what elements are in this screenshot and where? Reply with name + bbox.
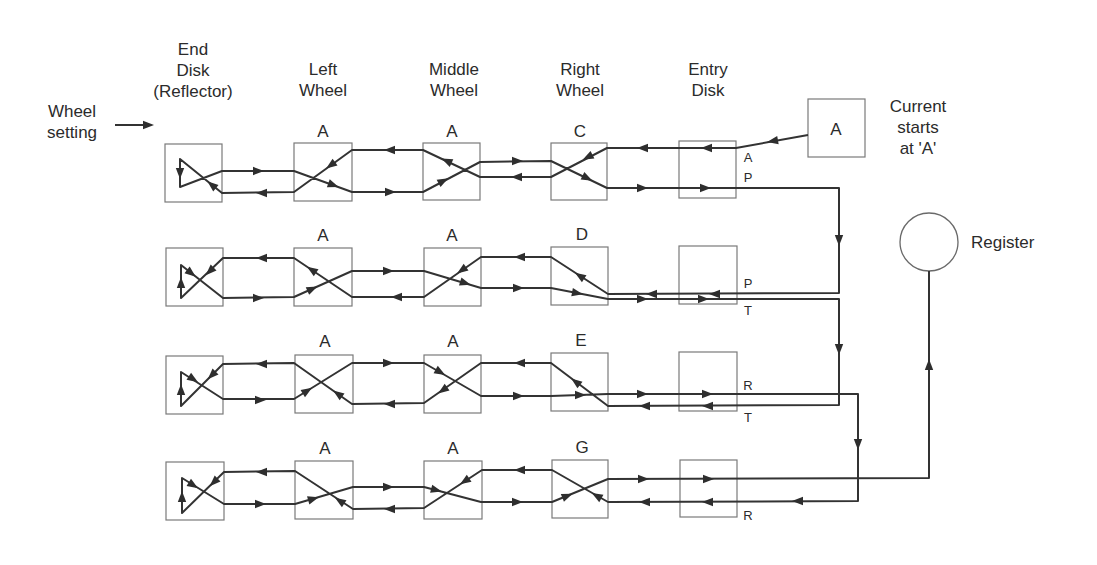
- entry-pin-in-row-1: A: [744, 151, 753, 164]
- arrow-icon: [639, 498, 650, 506]
- arrow-icon: [177, 277, 185, 288]
- label-line: Wheel: [556, 80, 604, 101]
- arrow-icon: [307, 493, 320, 504]
- column-header-entry-disk: Entry Disk: [688, 59, 728, 101]
- left-wheel-setting-row-4: A: [319, 440, 330, 457]
- arrow-icon: [766, 136, 778, 146]
- arrow-icon: [700, 184, 711, 192]
- arrow-icon: [792, 497, 803, 505]
- arrow-icon: [512, 157, 523, 165]
- arrow-icon: [637, 295, 648, 303]
- label-line: Disk: [153, 60, 232, 81]
- arrow-icon: [709, 290, 720, 298]
- label-line: starts: [890, 117, 947, 138]
- middle-wheel-box-row-1: [423, 143, 480, 200]
- end-disk-box-row-4: [166, 462, 224, 520]
- arrow-icon: [646, 290, 657, 298]
- entry-pin-out-row-2: T: [744, 304, 752, 317]
- arrow-icon: [637, 184, 648, 192]
- arrow-icon: [440, 155, 454, 167]
- label-line: at 'A': [890, 138, 947, 159]
- arrow-icon: [459, 278, 472, 289]
- current-path: [180, 135, 929, 513]
- label-line: Entry: [688, 59, 728, 80]
- arrow-icon: [255, 396, 266, 404]
- label-line: Current: [890, 96, 947, 117]
- arrow-icon: [256, 468, 267, 476]
- entry-disk-box-row-4: [680, 460, 737, 517]
- label-line: Disk: [688, 80, 728, 101]
- arrow-icon: [385, 188, 396, 196]
- source-caption: Current starts at 'A': [890, 96, 947, 159]
- right-wheel-setting-row-3: E: [575, 332, 586, 349]
- arrow-icon: [513, 284, 524, 292]
- arrow-icon: [187, 479, 201, 492]
- label-line: (Reflector): [153, 81, 232, 102]
- arrow-icon: [256, 254, 267, 262]
- entry-pin-out-row-4: R: [743, 509, 752, 522]
- column-header-end-disk: End Disk (Reflector): [153, 39, 232, 102]
- arrow-icon: [176, 168, 184, 179]
- arrow-icon: [639, 402, 650, 410]
- arrow-icon: [437, 174, 451, 187]
- arrow-icon: [434, 366, 448, 379]
- entry-disk-box-row-3: [679, 352, 737, 411]
- arrow-icon: [925, 359, 933, 370]
- arrow-icon: [514, 253, 525, 261]
- end-disk-box-row-2: [166, 248, 223, 306]
- arrow-icon: [835, 235, 843, 246]
- right-wheel-box-row-4: [552, 460, 608, 518]
- end-disk-box-row-3: [166, 356, 223, 414]
- arrow-icon: [854, 439, 862, 450]
- arrow-icon: [835, 344, 843, 355]
- arrow-icon: [573, 269, 587, 282]
- entry-disk-box-row-2: [679, 246, 737, 304]
- arrow-icon: [255, 500, 266, 508]
- arrow-icon: [637, 144, 648, 152]
- arrow-icon: [383, 483, 394, 491]
- entry-pin-in-row-2: P: [744, 277, 753, 290]
- arrow-icon: [306, 283, 319, 295]
- arrow-icon: [305, 263, 319, 276]
- arrow-icon: [458, 475, 472, 488]
- middle-wheel-setting-row-3: A: [447, 333, 458, 350]
- middle-wheel-setting-row-4: A: [447, 440, 458, 457]
- arrow-icon: [511, 173, 522, 181]
- arrow-icon: [698, 295, 709, 303]
- wheel-setting-label: Wheel setting: [47, 101, 97, 143]
- arrow-icon: [637, 390, 648, 398]
- arrow-icon: [256, 189, 267, 197]
- enigma-current-path-diagram: Wheel setting End Disk (Reflector) Left …: [0, 0, 1097, 565]
- arrow-icon: [703, 475, 714, 483]
- right-wheel-setting-row-1: C: [574, 123, 586, 140]
- arrow-icon: [638, 475, 649, 483]
- arrow-icon: [384, 505, 395, 513]
- label-line: End: [153, 39, 232, 60]
- arrow-icon: [253, 167, 264, 175]
- arrow-icon: [513, 392, 524, 400]
- register-label: Register: [971, 232, 1034, 253]
- column-header-middle-wheel: Middle Wheel: [429, 59, 479, 101]
- label-line: Left: [299, 59, 347, 80]
- arrow-icon: [575, 391, 586, 399]
- arrow-icon: [327, 179, 340, 191]
- label-line: Middle: [429, 59, 479, 80]
- arrow-icon: [253, 294, 264, 302]
- left-wheel-setting-row-2: A: [317, 227, 328, 244]
- arrow-icon: [590, 489, 604, 502]
- left-wheel-setting-row-1: A: [317, 123, 328, 140]
- label-line: Wheel: [47, 101, 97, 122]
- arrow-icon: [514, 359, 525, 367]
- arrow-icon: [514, 466, 525, 474]
- arrow-icon: [301, 384, 315, 397]
- middle-wheel-setting-row-2: A: [446, 227, 457, 244]
- arrow-icon: [702, 390, 713, 398]
- arrow-icon: [178, 491, 186, 502]
- arrow-icon: [143, 121, 154, 129]
- arrow-icon: [701, 144, 712, 152]
- right-wheel-setting-row-2: D: [576, 226, 588, 243]
- arrow-icon: [702, 498, 713, 506]
- register-lamp: [900, 213, 958, 271]
- arrow-icon: [561, 490, 574, 502]
- arrow-icon: [256, 360, 267, 368]
